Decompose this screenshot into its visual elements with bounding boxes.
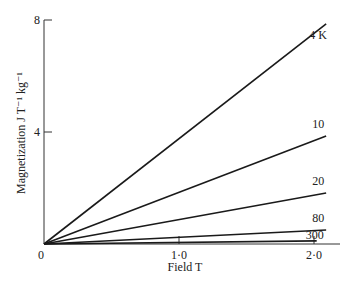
y-axis-label: Magnetization J T⁻¹ kg⁻¹ <box>14 72 28 194</box>
x-tick-label: 0 <box>38 248 44 262</box>
series-label: 300 <box>306 228 324 242</box>
series-line-4-k <box>44 24 326 244</box>
series-label: 20 <box>312 174 324 188</box>
y-tick-label: 4 <box>34 125 40 139</box>
x-tick-label: 2·0 <box>306 248 322 262</box>
series-label: 4 K <box>309 28 327 42</box>
axes: 4801·02·0 <box>34 13 340 262</box>
series-label: 80 <box>312 211 324 225</box>
y-tick-label: 8 <box>34 13 40 27</box>
series-label: 10 <box>312 117 324 131</box>
series-layer <box>44 24 326 244</box>
series-line-10 <box>44 136 326 244</box>
magnetization-chart: 4801·02·0 4 K102080300 Field T Magnetiza… <box>0 0 350 284</box>
x-axis-label: Field T <box>168 260 203 274</box>
series-labels: 4 K102080300 <box>306 28 328 242</box>
